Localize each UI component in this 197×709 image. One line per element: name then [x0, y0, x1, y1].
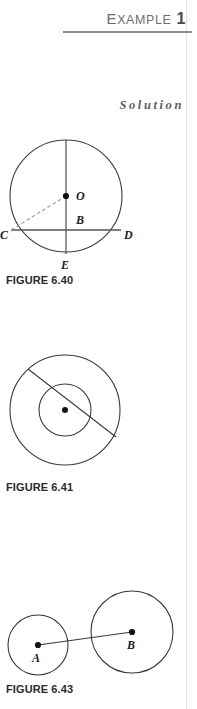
figure-643-drawing: A B [0, 580, 197, 690]
segment-ab-line [38, 632, 132, 645]
center-point-o-dot [63, 193, 69, 199]
label-e: E [60, 258, 69, 272]
solution-label: Solution [119, 98, 184, 113]
dashed-radius-oc [11, 196, 66, 230]
center-point-a-dot [35, 642, 41, 648]
label-d: D [123, 228, 133, 242]
figure-641-drawing [0, 340, 197, 480]
example-header-number: 1 [177, 10, 187, 27]
example-header-rule [63, 31, 192, 33]
figure-641-caption: FIGURE 6.41 [6, 481, 73, 493]
label-c: C [0, 228, 9, 242]
figure-643: A B FIGURE 6.43 [0, 580, 197, 709]
figure-641: FIGURE 6.41 [0, 340, 197, 505]
tangent-chord-line [28, 369, 116, 437]
center-point-dot [62, 407, 68, 413]
example-header-initial: E [107, 10, 118, 27]
example-header: EXAMPLE1 [60, 11, 186, 35]
figure-640: O B C D E FIGURE 6.40 [0, 130, 197, 290]
center-point-b-dot [129, 629, 135, 635]
label-b: B [75, 213, 84, 227]
example-header-label: EXAMPLE1 [107, 11, 186, 28]
figure-640-caption: FIGURE 6.40 [6, 274, 73, 286]
label-b: B [126, 638, 135, 652]
label-a: A [31, 651, 40, 665]
figure-640-drawing: O B C D E [0, 130, 197, 275]
example-header-rest: XAMPLE [117, 13, 171, 27]
label-o: O [76, 189, 85, 203]
figure-643-caption: FIGURE 6.43 [6, 683, 73, 695]
